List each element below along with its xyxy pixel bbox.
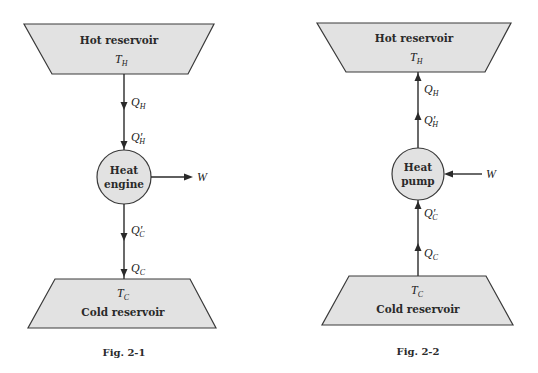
arrow-right-icon	[184, 174, 193, 181]
arrow-up-icon	[415, 201, 422, 209]
heat-pump-circle	[392, 148, 444, 200]
work-label: W	[197, 170, 208, 184]
work-label: W	[486, 167, 497, 181]
arrow-down-icon	[121, 233, 128, 241]
heat-flow-label-qc: QC	[131, 261, 146, 277]
hot-reservoir-box	[317, 23, 511, 72]
heat-flow-label-qc-prime: Q′C	[424, 206, 438, 222]
heat-flow-label-qh: QH	[424, 82, 440, 98]
hot-reservoir-label: Hot reservoir	[375, 32, 454, 44]
figure-caption: Fig. 2-2	[397, 346, 440, 357]
hot-reservoir-box	[24, 24, 214, 74]
arrow-left-icon	[444, 171, 453, 178]
figure-caption: Fig. 2-1	[103, 347, 146, 358]
thermodynamics-diagrams: Hot reservoir TH QH Q′H Heat engine W Q′…	[0, 0, 538, 373]
device-label-line2: pump	[401, 175, 434, 187]
heat-flow-label-qc-prime: Q′C	[131, 223, 145, 239]
arrow-up-icon	[415, 73, 422, 81]
cold-reservoir-label: Cold reservoir	[376, 303, 460, 315]
heat-engine-circle	[97, 150, 151, 204]
device-label-line1: Heat	[110, 164, 138, 176]
arrow-down-icon	[121, 102, 128, 110]
heat-flow-label-qh-prime: Q′H	[424, 113, 439, 129]
cold-reservoir-label: Cold reservoir	[81, 306, 165, 318]
heat-flow-label-qh-prime: Q′H	[131, 130, 146, 146]
device-label-line1: Heat	[404, 161, 432, 173]
arrow-down-icon	[121, 269, 128, 277]
arrow-down-icon	[121, 141, 128, 149]
figure-heat-engine: Hot reservoir TH QH Q′H Heat engine W Q′…	[24, 24, 216, 358]
device-label-line2: engine	[104, 178, 144, 190]
arrow-up-icon	[415, 112, 422, 120]
figure-heat-pump: Hot reservoir TH QH Q′H Heat pump W Q′C …	[317, 23, 513, 357]
hot-reservoir-label: Hot reservoir	[80, 34, 159, 46]
heat-flow-label-qc: QC	[424, 246, 439, 262]
arrow-up-icon	[415, 243, 422, 251]
heat-flow-label-qh: QH	[131, 95, 147, 111]
